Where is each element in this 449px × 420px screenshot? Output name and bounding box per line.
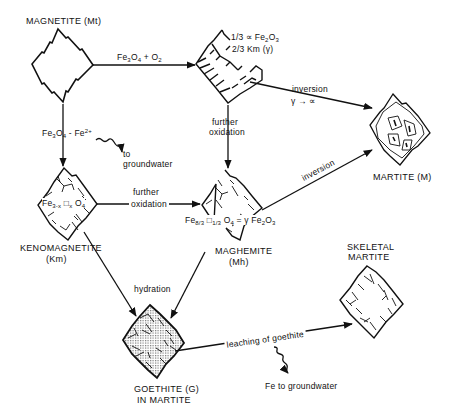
gamma-to-alpha-label: γ → ∝ xyxy=(291,96,315,106)
mixture-fraction-1: 1/3 xyxy=(231,32,243,42)
magnetite-label: MAGNETITE (Mt) xyxy=(26,16,101,26)
skeletal-martite-label-2: MARTITE xyxy=(348,252,389,262)
kenomagnetite-label-2: (Km) xyxy=(46,254,67,264)
further-oxidation-label-mid-1: further xyxy=(133,187,159,197)
goethite-label-1: GOETHITE (G) xyxy=(134,384,199,394)
kenomagnetite-label-1: KENOMAGNETITE xyxy=(20,243,102,253)
km-gamma-label: Km (γ) xyxy=(247,44,273,54)
hydration-label: hydration xyxy=(134,284,171,294)
hematite-formula: Fe2O3 xyxy=(255,32,279,42)
to-groundwater-label-2: groundwater xyxy=(123,159,172,169)
further-oxidation-label-top-1: further xyxy=(212,117,238,127)
to-groundwater-label-1: to xyxy=(123,149,131,159)
wavy-arrow-fe-to-groundwater xyxy=(274,347,288,373)
mixture-fraction-2: 2/3 xyxy=(232,44,244,54)
skeletal-martite-label-1: SKELETAL xyxy=(347,242,394,252)
edge-label-fe3o4-o2: Fe3O4 + O2 xyxy=(117,52,162,62)
fe-to-groundwater-label: Fe to groundwater xyxy=(265,381,337,391)
further-oxidation-label-top-2: oxidation xyxy=(209,127,245,137)
maghemite-label-1: MAGHEMITE xyxy=(215,246,272,256)
magnetite-crystal xyxy=(32,29,93,102)
arrow-mh-to-goethite xyxy=(171,252,205,318)
maghemite-crystal xyxy=(202,170,262,240)
diagram-canvas xyxy=(0,0,449,420)
oxidized-mixture-km: 2/3 Km (γ) xyxy=(232,44,273,54)
goethite-label-2: IN MARTITE xyxy=(137,395,191,405)
oxidized-mixture-formula: 1/3 ∝ Fe2O3 xyxy=(231,32,279,42)
further-oxidation-label-mid-2: oxidation xyxy=(129,199,169,209)
martite-label: MARTITE (M) xyxy=(373,172,432,182)
martite-crystal xyxy=(370,94,430,165)
wavy-arrow-fe2-to-groundwater xyxy=(96,139,122,153)
kenomagnetite-formula: Fe3-x □x O4 xyxy=(42,198,85,208)
alpha-symbol: ∝ xyxy=(246,32,252,42)
inversion-label-top: inversion xyxy=(292,84,328,94)
arrow-mh-to-martite xyxy=(262,150,372,210)
maghemite-formula: Fe8/3 □1/3 O4 = γ Fe2O3 xyxy=(185,215,276,225)
goethite-crystal xyxy=(123,305,184,378)
maghemite-label-2: (Mh) xyxy=(229,257,249,267)
skeletal-martite-crystal xyxy=(340,266,403,338)
edge-label-fe3o4-minus-fe2: Fe3O4 - Fe2+ xyxy=(42,128,92,138)
